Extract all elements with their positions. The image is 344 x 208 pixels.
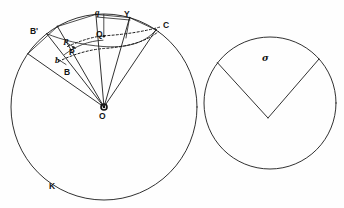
- label-sigma: σ: [262, 54, 269, 63]
- label-q-lower: q: [95, 8, 100, 17]
- radius-O-Bprime: [28, 54, 104, 107]
- right-circle-outline: [204, 37, 336, 169]
- label-P: P: [69, 48, 74, 57]
- chord-P-Q: [58, 14, 96, 26]
- figure-canvas: B' B P Q Y C O K q p b σ: [0, 0, 344, 208]
- node-P: [57, 26, 59, 28]
- center-point-O-dot: [103, 106, 106, 109]
- label-Y: Y: [124, 10, 129, 19]
- label-K: K: [49, 182, 55, 191]
- label-p-lower: p: [64, 36, 69, 45]
- sector-edge-left: [217, 63, 268, 119]
- radius-O-Y: [104, 18, 130, 107]
- label-b-lower: b: [55, 56, 60, 65]
- radius-O-C: [104, 30, 156, 107]
- label-B-prime: B': [30, 27, 38, 36]
- sector-edge-right: [268, 59, 319, 118]
- node-C: [155, 29, 157, 31]
- label-B: B: [64, 68, 70, 77]
- chord-Y-C: [130, 18, 156, 30]
- label-C: C: [163, 21, 169, 30]
- node-Q-inner: [103, 35, 106, 38]
- geometry-drawing: [0, 0, 344, 208]
- label-Q: Q: [96, 30, 102, 39]
- radius-O-B: [47, 34, 104, 107]
- label-O: O: [99, 112, 105, 121]
